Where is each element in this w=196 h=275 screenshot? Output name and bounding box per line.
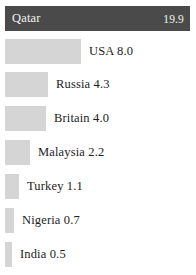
chart-row-russia: Russia 4.3 xyxy=(0,72,196,97)
chart-row-malaysia: Malaysia 2.2 xyxy=(0,140,196,165)
bar-label-malaysia: Malaysia 2.2 xyxy=(38,145,104,160)
chart-row-nigeria: Nigeria 0.7 xyxy=(0,208,196,233)
bar-qatar: Qatar 19.9 xyxy=(5,6,190,31)
chart-row-qatar: Qatar 19.9 xyxy=(0,6,196,31)
bar-india xyxy=(5,242,12,267)
bar-value-qatar: 19.9 xyxy=(163,13,184,25)
bar-label-nigeria: Nigeria 0.7 xyxy=(22,213,80,228)
bar-label-india: India 0.5 xyxy=(20,247,66,262)
bar-label-usa: USA 8.0 xyxy=(89,44,133,59)
bar-nigeria xyxy=(5,208,14,233)
horizontal-bar-chart: Qatar 19.9 USA 8.0 Russia 4.3 Britain 4.… xyxy=(0,0,196,275)
bar-label-britain: Britain 4.0 xyxy=(54,111,109,126)
bar-malaysia xyxy=(5,140,30,165)
bar-label-qatar: Qatar xyxy=(12,11,41,26)
chart-row-britain: Britain 4.0 xyxy=(0,106,196,131)
bar-turkey xyxy=(5,174,19,199)
chart-row-india: India 0.5 xyxy=(0,242,196,267)
bar-britain xyxy=(5,106,46,131)
bar-label-turkey: Turkey 1.1 xyxy=(27,179,83,194)
chart-row-turkey: Turkey 1.1 xyxy=(0,174,196,199)
chart-row-usa: USA 8.0 xyxy=(0,39,196,64)
bar-russia xyxy=(5,72,48,97)
bar-usa xyxy=(5,39,81,64)
bar-label-russia: Russia 4.3 xyxy=(56,77,110,92)
